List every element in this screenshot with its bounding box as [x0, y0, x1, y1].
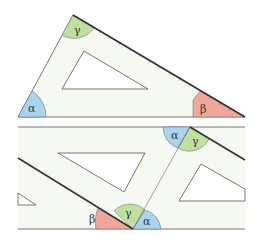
- gamma-label-top: γ: [192, 135, 199, 148]
- beta-label: β: [200, 103, 206, 116]
- alpha-label-top: α: [171, 129, 179, 142]
- beta-label-bottom: β: [89, 213, 95, 226]
- top-set-square: α γ β: [18, 15, 245, 117]
- gamma-label-bottom: γ: [125, 207, 132, 220]
- gamma-label: γ: [74, 24, 81, 37]
- set-square-diagram: α γ β: [0, 0, 257, 245]
- alpha-label: α: [28, 102, 36, 115]
- alpha-label-bottom: α: [143, 215, 151, 228]
- bottom-composition: β γ α α γ: [18, 127, 245, 229]
